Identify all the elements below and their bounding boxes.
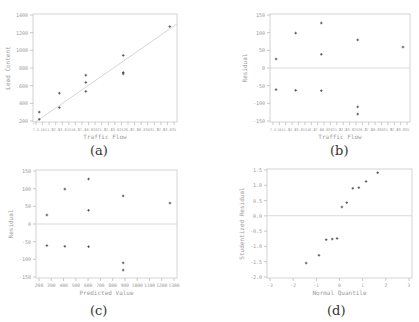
svg-text:150: 150	[22, 168, 31, 174]
data-point	[87, 245, 90, 248]
data-point	[305, 262, 308, 265]
svg-text:1000: 1000	[16, 47, 28, 53]
svg-text:33.8: 33.8	[163, 128, 172, 132]
data-point	[275, 58, 278, 61]
svg-text:150: 150	[256, 12, 265, 18]
svg-text:7.5: 7.5	[270, 128, 277, 132]
chart-panel-c: 150100500-50-100-15020030040050060070080…	[0, 160, 210, 322]
x-axis-label: Traffic Flow	[83, 133, 127, 140]
svg-text:-150: -150	[19, 274, 31, 280]
svg-text:600: 600	[84, 283, 93, 288]
data-point	[46, 214, 49, 217]
x-axis-label: Predicted Value	[79, 289, 134, 296]
data-point	[85, 81, 88, 84]
svg-text:-1.0: -1.0	[250, 243, 262, 249]
svg-text:23.8: 23.8	[345, 128, 354, 132]
svg-text:1400: 1400	[16, 12, 28, 18]
svg-text:0: 0	[28, 221, 31, 227]
svg-text:-2.0: -2.0	[250, 274, 262, 280]
svg-text:300: 300	[47, 283, 56, 288]
svg-text:28.8: 28.8	[371, 128, 380, 132]
svg-text:0.5: 0.5	[253, 198, 262, 204]
caption-b: (b)	[330, 143, 348, 158]
data-point	[341, 206, 344, 209]
svg-text:500: 500	[72, 283, 81, 288]
svg-text:13.8: 13.8	[294, 128, 303, 132]
svg-text:-150: -150	[253, 118, 265, 124]
chart-panel-d: 1.51.00.50.0-0.5-1.0-1.5-2.0-3-2-10123No…	[210, 160, 419, 322]
svg-text:35: 35	[405, 128, 409, 132]
data-point	[169, 25, 172, 28]
data-point	[336, 237, 339, 240]
data-point	[320, 53, 323, 56]
data-point	[376, 171, 379, 174]
svg-text:200: 200	[35, 283, 44, 288]
data-point	[331, 238, 334, 241]
svg-text:35: 35	[172, 128, 176, 132]
chart-panel-b: 150100500-50-100-1507.51011.312.513.8151…	[210, 0, 419, 160]
svg-text:1: 1	[361, 283, 364, 288]
svg-text:3: 3	[408, 283, 411, 288]
caption-d: (d)	[327, 303, 345, 318]
svg-text:23.8: 23.8	[111, 128, 120, 132]
svg-text:50: 50	[25, 203, 31, 209]
svg-text:-50: -50	[22, 239, 31, 245]
svg-text:0: 0	[262, 65, 265, 71]
data-point	[358, 186, 361, 189]
svg-text:18.8: 18.8	[84, 128, 93, 132]
svg-text:13.8: 13.8	[58, 128, 67, 132]
svg-text:-0.5: -0.5	[250, 228, 262, 234]
data-point	[38, 111, 41, 114]
data-point	[87, 178, 90, 181]
svg-text:7.5: 7.5	[33, 128, 40, 132]
svg-text:600: 600	[19, 83, 28, 89]
data-point	[64, 245, 67, 248]
data-point	[356, 106, 359, 109]
data-point	[320, 89, 323, 92]
svg-text:1200: 1200	[16, 30, 28, 36]
svg-text:1.0: 1.0	[253, 182, 262, 188]
data-point	[294, 32, 297, 35]
caption-c: (c)	[90, 303, 107, 318]
y-axis-label: Residual	[7, 209, 14, 238]
data-point	[122, 73, 125, 76]
data-point	[365, 180, 368, 183]
scatter-plot-c: 150100500-50-100-15020030040050060070080…	[0, 160, 210, 322]
svg-text:100: 100	[256, 30, 265, 36]
data-point	[356, 39, 359, 42]
svg-text:33.8: 33.8	[396, 128, 405, 132]
plot-frame	[267, 169, 412, 278]
data-point	[122, 262, 125, 265]
data-point	[356, 113, 359, 116]
data-point	[351, 187, 354, 190]
data-point	[46, 244, 49, 247]
y-axis-label: Residual	[241, 53, 248, 82]
svg-text:200: 200	[19, 118, 28, 124]
data-point	[64, 188, 67, 191]
data-point	[122, 195, 125, 198]
svg-text:-100: -100	[253, 100, 265, 106]
svg-text:100: 100	[22, 186, 31, 192]
data-point	[294, 89, 297, 92]
svg-text:28.8: 28.8	[137, 128, 146, 132]
svg-text:0.0: 0.0	[253, 213, 262, 219]
svg-text:2: 2	[384, 283, 387, 288]
scatter-plot-d: 1.51.00.50.0-0.5-1.0-1.5-2.0-3-2-10123No…	[210, 160, 419, 322]
svg-text:-50: -50	[256, 83, 265, 89]
plot-frame	[33, 14, 177, 122]
data-point	[122, 54, 125, 57]
svg-text:18.8: 18.8	[320, 128, 329, 132]
data-point	[85, 90, 88, 93]
svg-text:-100: -100	[19, 256, 31, 262]
y-axis-label: Lead Content	[4, 46, 11, 90]
svg-text:800: 800	[19, 65, 28, 71]
data-point	[318, 254, 321, 257]
caption-a: (a)	[90, 143, 108, 158]
data-point	[275, 88, 278, 91]
data-point	[169, 202, 172, 205]
svg-text:1.5: 1.5	[253, 167, 262, 173]
x-axis-label: Traffic Flow	[318, 133, 362, 140]
svg-text:1200: 1200	[156, 283, 167, 288]
svg-text:1000: 1000	[132, 283, 143, 288]
data-point	[85, 74, 88, 77]
